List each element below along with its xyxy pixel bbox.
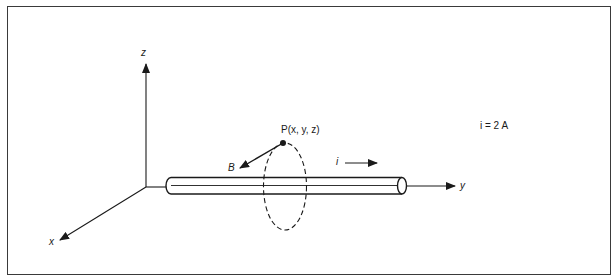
wire-tube — [166, 178, 407, 195]
current-value-label: i = 2 A — [480, 121, 508, 131]
magnetic-field-loop — [264, 143, 307, 230]
b-field-vector — [240, 143, 283, 168]
z-axis-label: z — [141, 48, 146, 58]
point-p-dot — [280, 140, 286, 146]
y-axis-label: y — [460, 181, 465, 191]
b-field-label: B — [228, 163, 235, 173]
point-p-label: P(x, y, z) — [281, 125, 320, 135]
x-axis — [60, 187, 146, 240]
current-label: i — [336, 157, 338, 167]
diagram-canvas — [0, 0, 615, 280]
x-axis-label: x — [49, 237, 54, 247]
